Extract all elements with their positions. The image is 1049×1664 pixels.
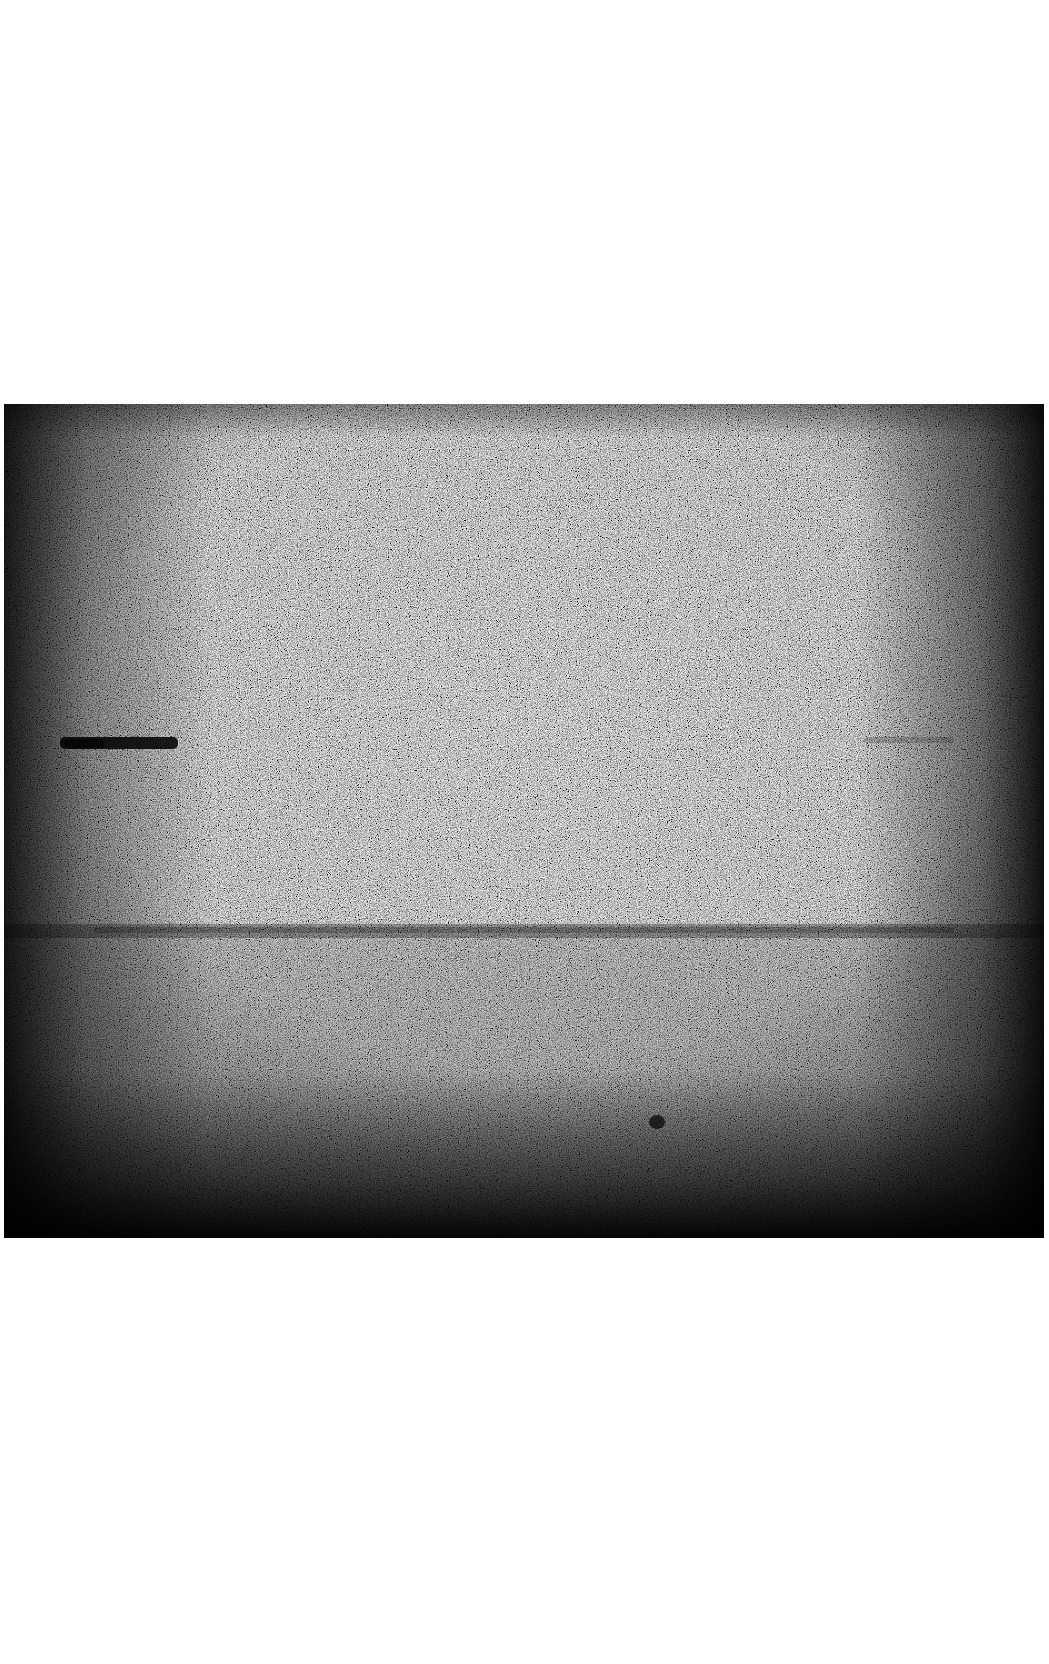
grainy-photograph [4,404,1044,1238]
film-grain-texture [4,404,1044,1238]
page-background [0,0,1049,1664]
